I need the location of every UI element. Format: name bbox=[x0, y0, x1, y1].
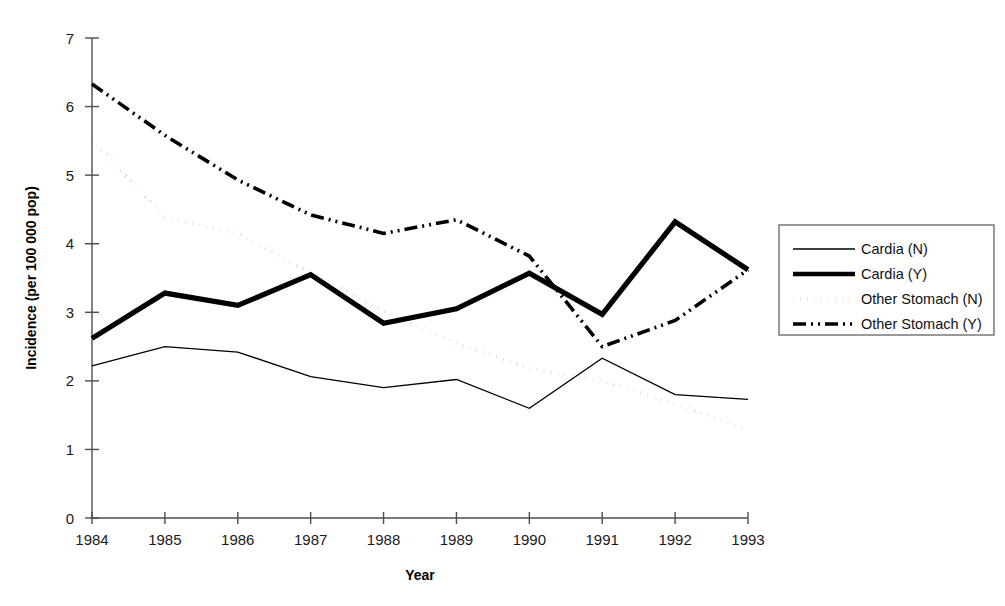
y-tick-label: 2 bbox=[66, 372, 74, 389]
y-tick-label: 5 bbox=[66, 167, 74, 184]
x-tick-label: 1985 bbox=[148, 531, 181, 548]
y-axis-ticks: 01234567 bbox=[66, 30, 99, 527]
x-tick-label: 1993 bbox=[731, 531, 764, 548]
chart-figure: 01234567 1984198519861987198819891990199… bbox=[0, 0, 1005, 606]
y-tick-label: 4 bbox=[66, 235, 74, 252]
x-tick-label: 1984 bbox=[75, 531, 108, 548]
legend-label: Other Stomach (N) bbox=[861, 291, 983, 307]
x-tick-label: 1986 bbox=[221, 531, 254, 548]
y-tick-label: 6 bbox=[66, 98, 74, 115]
y-tick-label: 0 bbox=[66, 510, 74, 527]
series-line-other-stomach-y bbox=[92, 84, 748, 347]
legend-label: Cardia (N) bbox=[861, 241, 928, 257]
data-series-group bbox=[92, 84, 748, 430]
x-tick-label: 1990 bbox=[513, 531, 546, 548]
chart-legend: Cardia (N)Cardia (Y)Other Stomach (N)Oth… bbox=[779, 225, 994, 335]
line-chart: 01234567 1984198519861987198819891990199… bbox=[0, 0, 1005, 606]
chart-axes bbox=[92, 38, 748, 518]
x-tick-label: 1987 bbox=[294, 531, 327, 548]
y-axis-title: Incidence (per 100 000 pop) bbox=[23, 186, 39, 370]
x-axis-title: Year bbox=[405, 567, 435, 583]
y-tick-label: 7 bbox=[66, 30, 74, 47]
x-tick-label: 1989 bbox=[440, 531, 473, 548]
y-tick-label: 3 bbox=[66, 304, 74, 321]
series-line-other-stomach-n bbox=[92, 139, 748, 430]
legend-label: Cardia (Y) bbox=[861, 266, 927, 282]
series-line-cardia-y bbox=[92, 222, 748, 339]
x-tick-label: 1991 bbox=[586, 531, 619, 548]
x-tick-label: 1988 bbox=[367, 531, 400, 548]
legend-label: Other Stomach (Y) bbox=[861, 316, 982, 332]
series-line-cardia-n bbox=[92, 347, 748, 409]
x-tick-label: 1992 bbox=[658, 531, 691, 548]
y-tick-label: 1 bbox=[66, 441, 74, 458]
